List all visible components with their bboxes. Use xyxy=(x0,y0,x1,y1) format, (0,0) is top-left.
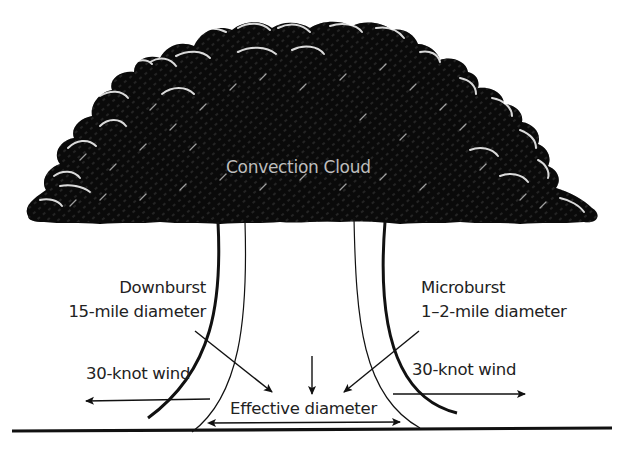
convection-cloud-icon xyxy=(27,22,598,224)
cloud-label: Convection Cloud xyxy=(226,159,371,176)
effective-diameter-label: Effective diameter xyxy=(230,401,377,418)
downburst-pointer-arrow xyxy=(195,331,272,392)
microburst-label: Microburst xyxy=(421,280,505,297)
microburst-pointer-arrow xyxy=(344,331,419,392)
right-wind-label: 30-knot wind xyxy=(412,362,516,379)
diagram-graphics xyxy=(0,0,622,454)
left-wind-label: 30-knot wind xyxy=(86,366,190,383)
downburst-diagram: Convection Cloud Downburst 15-mile diame… xyxy=(0,0,622,454)
ground-line xyxy=(12,428,612,431)
left-wind-arrow xyxy=(86,399,210,401)
microburst-size-label: 1–2-mile diameter xyxy=(421,304,567,321)
downburst-size-label: 15-mile diameter xyxy=(68,304,206,321)
effective-diameter-arrow xyxy=(209,422,400,423)
downburst-label: Downburst xyxy=(119,280,206,297)
